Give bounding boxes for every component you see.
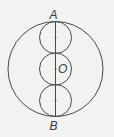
label-o: O	[58, 62, 67, 76]
center-dot-bottom	[55, 100, 57, 102]
label-a: A	[49, 8, 58, 22]
label-b: B	[50, 119, 58, 133]
center-dot-top	[55, 37, 57, 39]
geometry-diagram: A O B	[0, 0, 114, 137]
center-dot-o	[55, 68, 57, 70]
